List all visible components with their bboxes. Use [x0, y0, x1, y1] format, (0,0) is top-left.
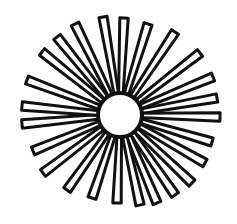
sunburst-center-circle — [98, 93, 142, 137]
sunburst-drawing — [0, 0, 237, 224]
sunburst-ray — [140, 113, 220, 121]
sunburst-ray — [113, 135, 122, 203]
